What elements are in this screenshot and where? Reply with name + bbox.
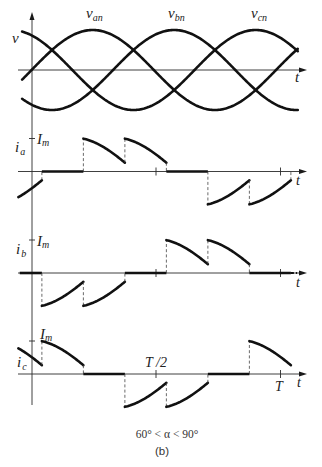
- ic-segment-neg: [166, 383, 208, 407]
- ia-time-label: t: [296, 173, 301, 188]
- ia-subscript: a: [20, 146, 25, 157]
- voltage-panel: v t van vbn vcn: [12, 5, 307, 110]
- ib-segment-pos: [166, 240, 208, 264]
- figure-caption: 60° < α < 90°: [136, 428, 199, 440]
- half-period-label: T /2: [145, 355, 167, 370]
- ic-segment-pos: [249, 341, 291, 365]
- ic-peak-label: Im: [39, 326, 52, 343]
- current-panel-ib: ib Im t: [16, 233, 307, 306]
- v-cn-label: vcn: [251, 5, 267, 23]
- v-bn-subscript: bn: [175, 12, 185, 23]
- ib-segment-pos: [208, 240, 250, 264]
- current-panel-ia: ia Im t: [15, 131, 307, 204]
- ib-axis-label: ib: [16, 241, 26, 259]
- figure-panel-label: (b): [155, 445, 169, 457]
- ic-symbol: i: [17, 354, 21, 370]
- ia-symbol: i: [15, 139, 19, 155]
- ia-segment-pos: [125, 139, 167, 163]
- ic-axis-label: ic: [17, 354, 27, 372]
- ia-segment-neg: [18, 180, 42, 197]
- voltage-time-axis-arrow-icon: [299, 67, 307, 72]
- ib-subscript: b: [21, 248, 26, 259]
- ib-symbol: i: [16, 241, 20, 257]
- ic-peak-subscript: m: [45, 332, 52, 343]
- ic-subscript: c: [22, 361, 27, 372]
- ia-axis-label: ia: [15, 139, 25, 157]
- voltage-axis-label: v: [12, 30, 19, 46]
- v-bn-label: vbn: [168, 5, 185, 23]
- v-cn-subscript: cn: [258, 12, 267, 23]
- ib-time-label: t: [296, 275, 301, 290]
- ia-segment-neg: [208, 180, 250, 204]
- ic-segment-pos: [42, 341, 83, 365]
- ia-segment-neg: [249, 180, 291, 204]
- ib-segment-neg: [83, 282, 125, 306]
- v-an-subscript: an: [93, 12, 103, 23]
- ia-peak-subscript: m: [42, 137, 49, 148]
- waveform-figure: v t van vbn vcn ia Im t ib: [0, 0, 322, 467]
- vertical-axis-arrow-icon: [30, 12, 35, 20]
- ic-segment-neg: [125, 383, 167, 407]
- ib-time-axis-arrow-icon: [299, 270, 307, 275]
- ia-peak-label: Im: [36, 131, 49, 148]
- ic-time-label: t: [297, 375, 302, 390]
- current-panel-ic: ic Im t T /2 T: [17, 326, 307, 407]
- ib-segment-neg: [42, 282, 83, 306]
- v-an-label: van: [86, 5, 103, 23]
- ib-peak-subscript: m: [42, 239, 49, 250]
- ia-time-axis-arrow-icon: [299, 169, 307, 174]
- ib-peak-label: Im: [36, 233, 49, 250]
- ia-segment-pos: [83, 139, 125, 163]
- period-label: T: [275, 379, 284, 394]
